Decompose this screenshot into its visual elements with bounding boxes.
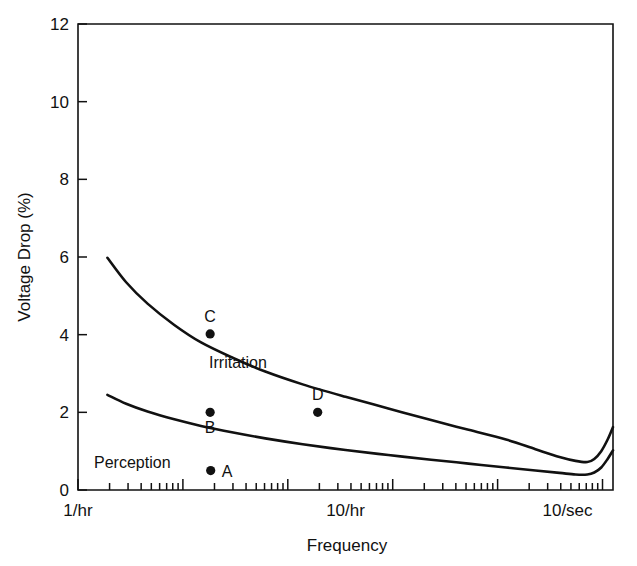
data-point-d[interactable] — [313, 408, 322, 417]
data-point-label-a: A — [222, 463, 233, 480]
x-tick-label: 1/hr — [63, 501, 93, 520]
y-tick-label: 12 — [50, 15, 69, 34]
curve-label-perception: Perception — [94, 454, 171, 471]
data-point-label-b: B — [205, 419, 216, 436]
x-tick-label: 10/hr — [326, 501, 365, 520]
y-tick-label: 6 — [60, 248, 69, 267]
data-point-label-d: D — [312, 386, 324, 403]
data-point-a[interactable] — [206, 466, 215, 475]
voltage-drop-frequency-chart: 024681012 1/hr10/hr10/sec Irritation Per… — [0, 0, 637, 566]
y-tick-label: 10 — [50, 93, 69, 112]
x-axis-title: Frequency — [307, 536, 388, 555]
y-axis-title: Voltage Drop (%) — [15, 192, 34, 321]
chart-background — [0, 0, 637, 566]
data-point-label-c: C — [204, 308, 216, 325]
data-point-c[interactable] — [206, 329, 215, 338]
y-tick-label: 8 — [60, 170, 69, 189]
data-point-b[interactable] — [206, 408, 215, 417]
y-tick-label: 4 — [60, 326, 69, 345]
curve-label-irritation: Irritation — [209, 354, 267, 371]
y-tick-label: 2 — [60, 403, 69, 422]
x-tick-label: 10/sec — [542, 501, 593, 520]
y-tick-label: 0 — [60, 481, 69, 500]
